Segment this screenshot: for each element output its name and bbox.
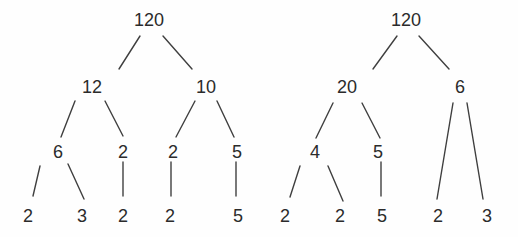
tree-node-r-leaf2b: 2: [335, 206, 345, 226]
branch-line-r-120-to-r-20: [373, 36, 397, 69]
tree-node-l-120: 120: [134, 10, 164, 30]
tree-node-l-leaf3: 3: [77, 206, 87, 226]
tree-node-l-leaf2a: 2: [23, 206, 33, 226]
branch-line-l-10-to-l-2b: [176, 101, 195, 137]
tree-node-l-6: 6: [53, 142, 63, 162]
factor-trees-svg: 12012106225232251202064522523: [0, 0, 518, 237]
branch-line-r-4-to-r-leaf2b: [328, 166, 343, 201]
tree-node-l-leaf2b: 2: [118, 206, 128, 226]
tree-node-r-6: 6: [455, 77, 465, 97]
branch-line-l-120-to-l-12: [119, 36, 140, 69]
branch-line-r-4-to-r-leaf2a: [290, 166, 300, 197]
tree-node-r-leaf3: 3: [482, 206, 492, 226]
tree-node-r-leaf2a: 2: [280, 206, 290, 226]
branch-line-l-10-to-l-5: [217, 101, 234, 137]
tree-node-l-12: 12: [82, 77, 102, 97]
tree-node-r-20: 20: [337, 77, 357, 97]
tree-node-l-leaf5: 5: [233, 206, 243, 226]
tree-node-l-5: 5: [232, 142, 242, 162]
branch-line-r-120-to-r-6: [419, 36, 449, 69]
branch-line-r-20-to-r-5: [362, 103, 380, 138]
branch-line-l-6-to-l-leaf2a: [33, 166, 40, 196]
tree-node-l-leaf2c: 2: [165, 206, 175, 226]
tree-node-l-2a: 2: [118, 142, 128, 162]
factor-tree-right: 1202064522523: [280, 10, 492, 226]
branch-line-l-120-to-l-10: [163, 36, 192, 69]
branch-line-l-12-to-l-2a: [105, 101, 123, 136]
branch-line-r-20-to-r-4: [316, 103, 333, 138]
tree-node-r-120: 120: [391, 10, 421, 30]
branch-line-l-6-to-l-leaf3: [68, 164, 84, 199]
tree-node-r-5: 5: [373, 142, 383, 162]
tree-node-l-2b: 2: [168, 142, 178, 162]
tree-node-r-leaf5: 5: [377, 206, 387, 226]
factor-tree-left: 1201210622523225: [23, 10, 243, 226]
factor-tree-diagram: 12012106225232251202064522523: [0, 0, 518, 237]
branch-line-l-12-to-l-6: [61, 101, 75, 137]
tree-node-l-10: 10: [196, 77, 216, 97]
tree-node-r-4: 4: [310, 142, 320, 162]
tree-node-r-leaf2c: 2: [433, 206, 443, 226]
branch-line-r-6-to-r-leaf2c: [437, 103, 453, 199]
branch-line-r-6-to-r-leaf3: [467, 103, 483, 199]
